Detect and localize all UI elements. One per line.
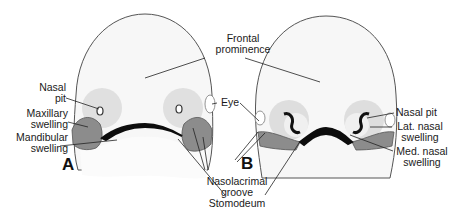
label-med-nasal-line2: swelling (392, 157, 452, 168)
label-maxillary-swelling: Maxillary swelling (6, 108, 68, 130)
label-med-nasal-swelling: Med. nasal swelling (392, 146, 452, 168)
panel-label-a: A (62, 155, 74, 175)
label-nasolacrimal-groove: Nasolacrimal groove (196, 176, 278, 198)
label-mandibular-line2: swelling (2, 143, 68, 154)
label-lat-nasal-line2: swelling (392, 132, 448, 143)
label-stomodeum: Stomodeum (202, 198, 272, 209)
label-nasal-pit-a-line2: pit (20, 93, 66, 104)
label-mandibular-swelling: Mandibular swelling (2, 132, 68, 154)
label-frontal-line2: prominence (203, 44, 283, 55)
maxillary-swelling-right-a (182, 117, 212, 151)
label-eye: Eye (221, 97, 239, 108)
panel-label-b: B (241, 154, 253, 174)
label-lat-nasal-swelling: Lat. nasal swelling (392, 121, 448, 143)
label-maxillary-line2: swelling (6, 119, 68, 130)
label-frontal-prominence: Frontal prominence (203, 33, 283, 55)
label-nasal-pit-b: Nasal pit (396, 107, 437, 118)
embryo-head-a (72, 14, 215, 178)
maxillary-swelling-left-a (72, 117, 102, 149)
label-nasal-pit-a: Nasal pit (20, 82, 66, 104)
